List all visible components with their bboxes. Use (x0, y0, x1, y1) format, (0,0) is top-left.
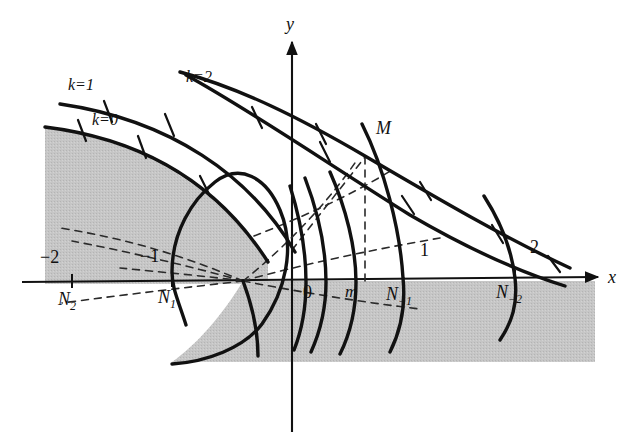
label-Nm1-subscript: −1 (398, 294, 412, 308)
label-y-axis: y (284, 14, 294, 34)
label-N1-subscript: 1 (170, 297, 176, 311)
label-k1: k=1 (68, 76, 94, 93)
label-one: 1 (420, 240, 429, 260)
dashed-arc-upper (254, 170, 392, 236)
hatch-k1-b (165, 114, 174, 136)
dashed-ray-right-upper (243, 238, 440, 281)
hatch-k2-a (252, 107, 262, 128)
diagram-canvas: y x k=1 k=0 k=2 M m −2 −1 1 2 0 N2 N1 N−… (0, 0, 633, 438)
label-x-axis: x (607, 267, 616, 287)
math-figure: y x k=1 k=0 k=2 M m −2 −1 1 2 0 N2 N1 N−… (0, 0, 633, 438)
label-N2: N2 (57, 289, 76, 313)
label-minus-two: −2 (40, 247, 59, 267)
label-Nm1-base: N (385, 284, 399, 304)
label-k2: k=2 (186, 68, 212, 85)
label-N1-base: N (157, 287, 171, 307)
label-Nm2-base: N (495, 282, 509, 302)
label-N2-base: N (57, 289, 71, 309)
label-point-m: m (345, 282, 357, 301)
label-two: 2 (530, 237, 539, 257)
label-Nm2-subscript: −2 (508, 292, 522, 306)
label-k0: k=0 (92, 111, 118, 128)
label-origin: 0 (303, 282, 312, 302)
dashed-ray-lower-left (62, 281, 243, 303)
label-minus-one: −1 (140, 246, 159, 266)
label-N2-subscript: 2 (70, 299, 76, 313)
hatch-M-b (420, 182, 431, 200)
shaded-region-lower-bulge (172, 281, 243, 362)
label-point-M: M (375, 118, 392, 138)
